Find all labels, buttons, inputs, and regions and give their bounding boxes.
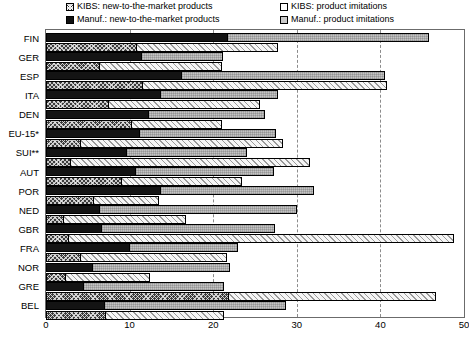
legend-item-manuf-new: Manuf.: new-to-the-market products bbox=[66, 15, 220, 24]
legend-label-kibs-new: KIBS: new-to-the-market products bbox=[77, 2, 213, 11]
bar-group-ita bbox=[46, 87, 464, 106]
segment-manuf-imitations bbox=[104, 302, 285, 309]
legend-label-manuf-imitations: Manuf.: product imitations bbox=[291, 15, 394, 24]
x-axis-tick-40: 40 bbox=[375, 320, 386, 330]
segment-manuf-imitations bbox=[141, 53, 223, 60]
y-axis-label-ger: GER bbox=[18, 53, 39, 63]
segment-manuf-new bbox=[47, 187, 160, 194]
x-axis-tick-20: 20 bbox=[208, 320, 219, 330]
bar-manufacturing-esp bbox=[46, 71, 385, 80]
x-axis-labels: 01020304050 bbox=[0, 320, 468, 334]
bar-group-fra bbox=[46, 240, 464, 259]
segment-manuf-imitations bbox=[227, 34, 428, 41]
bar-group-aut bbox=[46, 164, 464, 183]
segment-manuf-new bbox=[47, 264, 92, 271]
y-axis-labels: FINGERESPITADENEU-15*SUI**AUTPORNEDGBRFR… bbox=[0, 29, 43, 318]
segment-manuf-new bbox=[47, 168, 135, 175]
segment-manuf-imitations bbox=[139, 130, 275, 137]
bar-manufacturing-ita bbox=[46, 90, 278, 99]
chart-legend: KIBS: new-to-the-market products KIBS: p… bbox=[0, 2, 468, 28]
bar-group-sui bbox=[46, 145, 464, 164]
bar-manufacturing-den bbox=[46, 110, 265, 119]
legend-label-manuf-new: Manuf.: new-to-the-market products bbox=[77, 15, 220, 24]
y-axis-label-ita: ITA bbox=[25, 91, 39, 101]
segment-manuf-imitations bbox=[101, 225, 274, 232]
x-axis-tick-30: 30 bbox=[292, 320, 303, 330]
legend-row-top: KIBS: new-to-the-market products KIBS: p… bbox=[0, 2, 468, 14]
segment-manuf-new bbox=[47, 283, 83, 290]
y-axis-label-ned: NED bbox=[19, 206, 39, 216]
bar-manufacturing-por bbox=[46, 186, 314, 195]
bar-group-por bbox=[46, 183, 464, 202]
segment-kibs-imitations bbox=[105, 312, 223, 319]
bar-group-eu15 bbox=[46, 126, 464, 145]
legend-item-manuf-imitations: Manuf.: product imitations bbox=[280, 15, 394, 24]
legend-label-kibs-imitations: KIBS: product imitations bbox=[291, 2, 387, 11]
y-axis-label-fin: FIN bbox=[24, 34, 39, 44]
y-axis-label-nor: NOR bbox=[18, 263, 39, 273]
bar-group-ned bbox=[46, 202, 464, 221]
y-axis-label-gre: GRE bbox=[18, 282, 39, 292]
bar-manufacturing-nor bbox=[46, 263, 230, 272]
segment-manuf-imitations bbox=[129, 244, 237, 251]
bar-group-gbr bbox=[46, 221, 464, 240]
segment-manuf-imitations bbox=[181, 72, 384, 79]
segment-manuf-new bbox=[47, 130, 139, 137]
bar-manufacturing-fra bbox=[46, 243, 238, 252]
segment-manuf-new bbox=[47, 91, 160, 98]
bar-manufacturing-ned bbox=[46, 205, 297, 214]
segment-manuf-new bbox=[47, 34, 227, 41]
x-axis-tick-10: 10 bbox=[124, 320, 135, 330]
y-axis-label-aut: AUT bbox=[20, 168, 39, 178]
segment-manuf-imitations bbox=[148, 111, 264, 118]
y-axis-label-por: POR bbox=[18, 187, 39, 197]
y-axis-label-sui: SUI** bbox=[16, 148, 39, 158]
segment-manuf-imitations bbox=[160, 187, 313, 194]
segment-manuf-new bbox=[47, 53, 141, 60]
bar-manufacturing-fin bbox=[46, 33, 429, 42]
segment-manuf-new bbox=[47, 149, 126, 156]
segment-manuf-new bbox=[47, 206, 99, 213]
segment-manuf-new bbox=[47, 302, 104, 309]
plot-area bbox=[45, 29, 465, 318]
bar-manufacturing-sui bbox=[46, 148, 247, 157]
y-axis-label-bel: BEL bbox=[21, 301, 39, 311]
segment-manuf-imitations bbox=[92, 264, 229, 271]
kibs-new-swatch-icon bbox=[66, 3, 74, 11]
segment-kibs-new bbox=[47, 312, 105, 319]
y-axis-label-eu15: EU-15* bbox=[8, 129, 39, 139]
bar-group-esp bbox=[46, 68, 464, 87]
bar-manufacturing-ger bbox=[46, 52, 223, 61]
bar-group-den bbox=[46, 107, 464, 126]
segment-manuf-new bbox=[47, 244, 129, 251]
segment-manuf-imitations bbox=[83, 283, 223, 290]
y-axis-label-esp: ESP bbox=[20, 72, 39, 82]
manuf-new-swatch-icon bbox=[66, 16, 74, 24]
segment-manuf-imitations bbox=[99, 206, 296, 213]
bar-group-nor bbox=[46, 260, 464, 279]
bar-kibs-bel bbox=[46, 311, 224, 320]
x-axis-tick-50: 50 bbox=[459, 320, 469, 330]
bar-group-fin bbox=[46, 30, 464, 49]
bar-group-bel bbox=[46, 298, 464, 317]
kibs-imitations-swatch-icon bbox=[280, 3, 288, 11]
manuf-imitations-swatch-icon bbox=[280, 16, 288, 24]
bar-group-ger bbox=[46, 49, 464, 68]
bar-manufacturing-bel bbox=[46, 301, 286, 310]
y-axis-label-gbr: GBR bbox=[18, 225, 39, 235]
segment-manuf-new bbox=[47, 225, 101, 232]
bar-manufacturing-gbr bbox=[46, 224, 275, 233]
x-axis-tick-0: 0 bbox=[43, 320, 48, 330]
segment-manuf-new bbox=[47, 72, 181, 79]
y-axis-label-fra: FRA bbox=[20, 244, 39, 254]
bar-manufacturing-aut bbox=[46, 167, 274, 176]
bar-group-gre bbox=[46, 279, 464, 298]
y-axis-label-den: DEN bbox=[19, 110, 39, 120]
legend-row-bottom: Manuf.: new-to-the-market products Manuf… bbox=[0, 15, 468, 27]
segment-manuf-imitations bbox=[160, 91, 278, 98]
segment-manuf-new bbox=[47, 111, 148, 118]
legend-item-kibs-new: KIBS: new-to-the-market products bbox=[66, 2, 213, 11]
bar-manufacturing-eu15 bbox=[46, 129, 276, 138]
segment-manuf-imitations bbox=[135, 168, 273, 175]
